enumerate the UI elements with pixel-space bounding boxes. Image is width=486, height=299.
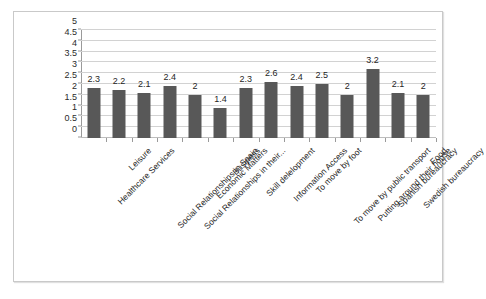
y-axis-tick-label: 3 bbox=[72, 60, 77, 69]
x-axis-tick-mark bbox=[106, 138, 107, 142]
bar[interactable] bbox=[113, 90, 126, 138]
bar-value-label: 2.4 bbox=[290, 73, 303, 82]
x-axis-tick-mark bbox=[284, 138, 285, 142]
y-axis-tick-label: 2 bbox=[72, 81, 77, 90]
bar[interactable] bbox=[138, 93, 151, 138]
x-axis-tick-mark bbox=[132, 138, 133, 142]
bar-value-label: 2 bbox=[345, 82, 350, 91]
bar[interactable] bbox=[239, 88, 252, 138]
bar-value-label: 3.2 bbox=[366, 56, 379, 65]
bar[interactable] bbox=[265, 82, 278, 138]
bar-slot: 2 bbox=[335, 30, 360, 138]
y-axis-tick-label: 1 bbox=[72, 103, 77, 112]
x-axis-tick-mark bbox=[335, 138, 336, 142]
figure-caption bbox=[0, 288, 457, 299]
bar-slot: 2.4 bbox=[284, 30, 309, 138]
x-axis-tick-mark bbox=[259, 138, 260, 142]
chart-container: 00.511.522.533.544.55 2.32.22.12.421.42.… bbox=[13, 11, 443, 282]
plot-area: 00.511.522.533.544.55 2.32.22.12.421.42.… bbox=[81, 30, 436, 138]
bar-slot: 3.2 bbox=[360, 30, 385, 138]
x-axis-tick-mark bbox=[436, 138, 437, 142]
bar-value-label: 2 bbox=[421, 82, 426, 91]
bar-value-label: 2.5 bbox=[316, 71, 329, 80]
bar[interactable] bbox=[214, 108, 227, 138]
bar-value-label: 2.6 bbox=[265, 69, 278, 78]
y-axis-tick-label: 0.5 bbox=[64, 114, 77, 123]
bar-value-label: 2 bbox=[193, 82, 198, 91]
bar-value-label: 2.2 bbox=[113, 77, 126, 86]
bar[interactable] bbox=[315, 84, 328, 138]
bar-value-label: 2.4 bbox=[163, 73, 176, 82]
x-axis-tick-mark bbox=[360, 138, 361, 142]
bar-slot: 2 bbox=[411, 30, 436, 138]
bar[interactable] bbox=[341, 95, 354, 138]
bar-slot: 2.5 bbox=[309, 30, 334, 138]
x-axis-tick-mark bbox=[309, 138, 310, 142]
x-axis-tick-mark bbox=[208, 138, 209, 142]
y-axis-tick-label: 3.5 bbox=[64, 49, 77, 58]
bar[interactable] bbox=[163, 86, 176, 138]
bar[interactable] bbox=[87, 88, 100, 138]
bar-slot: 2.2 bbox=[106, 30, 131, 138]
y-axis-tick-label: 1.5 bbox=[64, 92, 77, 101]
bar-slot: 2.3 bbox=[233, 30, 258, 138]
bar[interactable] bbox=[391, 93, 404, 138]
x-axis-tick-mark bbox=[182, 138, 183, 142]
bar-slot: 1.4 bbox=[208, 30, 233, 138]
chart-plot-wrapper: 00.511.522.533.544.55 2.32.22.12.421.42.… bbox=[14, 12, 442, 281]
bar[interactable] bbox=[366, 69, 379, 138]
bar[interactable] bbox=[290, 86, 303, 138]
bar-slot: 2 bbox=[182, 30, 207, 138]
bar[interactable] bbox=[189, 95, 202, 138]
x-axis-tick-mark bbox=[233, 138, 234, 142]
bar[interactable] bbox=[417, 95, 430, 138]
bar-value-label: 2.1 bbox=[138, 80, 151, 89]
y-axis-tick-label: 2.5 bbox=[64, 71, 77, 80]
bar-slot: 2.6 bbox=[259, 30, 284, 138]
bar-value-label: 2.1 bbox=[392, 80, 405, 89]
bar-slot: 2.3 bbox=[81, 30, 106, 138]
bar-slot: 2.1 bbox=[385, 30, 410, 138]
y-axis-tick-label: 5 bbox=[72, 17, 77, 26]
y-axis-tick-label: 4.5 bbox=[64, 27, 77, 36]
x-axis-tick-mark bbox=[385, 138, 386, 142]
y-axis-tick-label: 4 bbox=[72, 38, 77, 47]
x-axis-tick-mark bbox=[157, 138, 158, 142]
bar-value-label: 1.4 bbox=[214, 95, 227, 104]
x-axis-tick-mark bbox=[411, 138, 412, 142]
bar-value-label: 2.3 bbox=[240, 75, 253, 84]
bar-slot: 2.4 bbox=[157, 30, 182, 138]
bar-value-label: 2.3 bbox=[87, 75, 100, 84]
y-axis-tick-label: 0 bbox=[72, 125, 77, 134]
bar-slot: 2.1 bbox=[132, 30, 157, 138]
